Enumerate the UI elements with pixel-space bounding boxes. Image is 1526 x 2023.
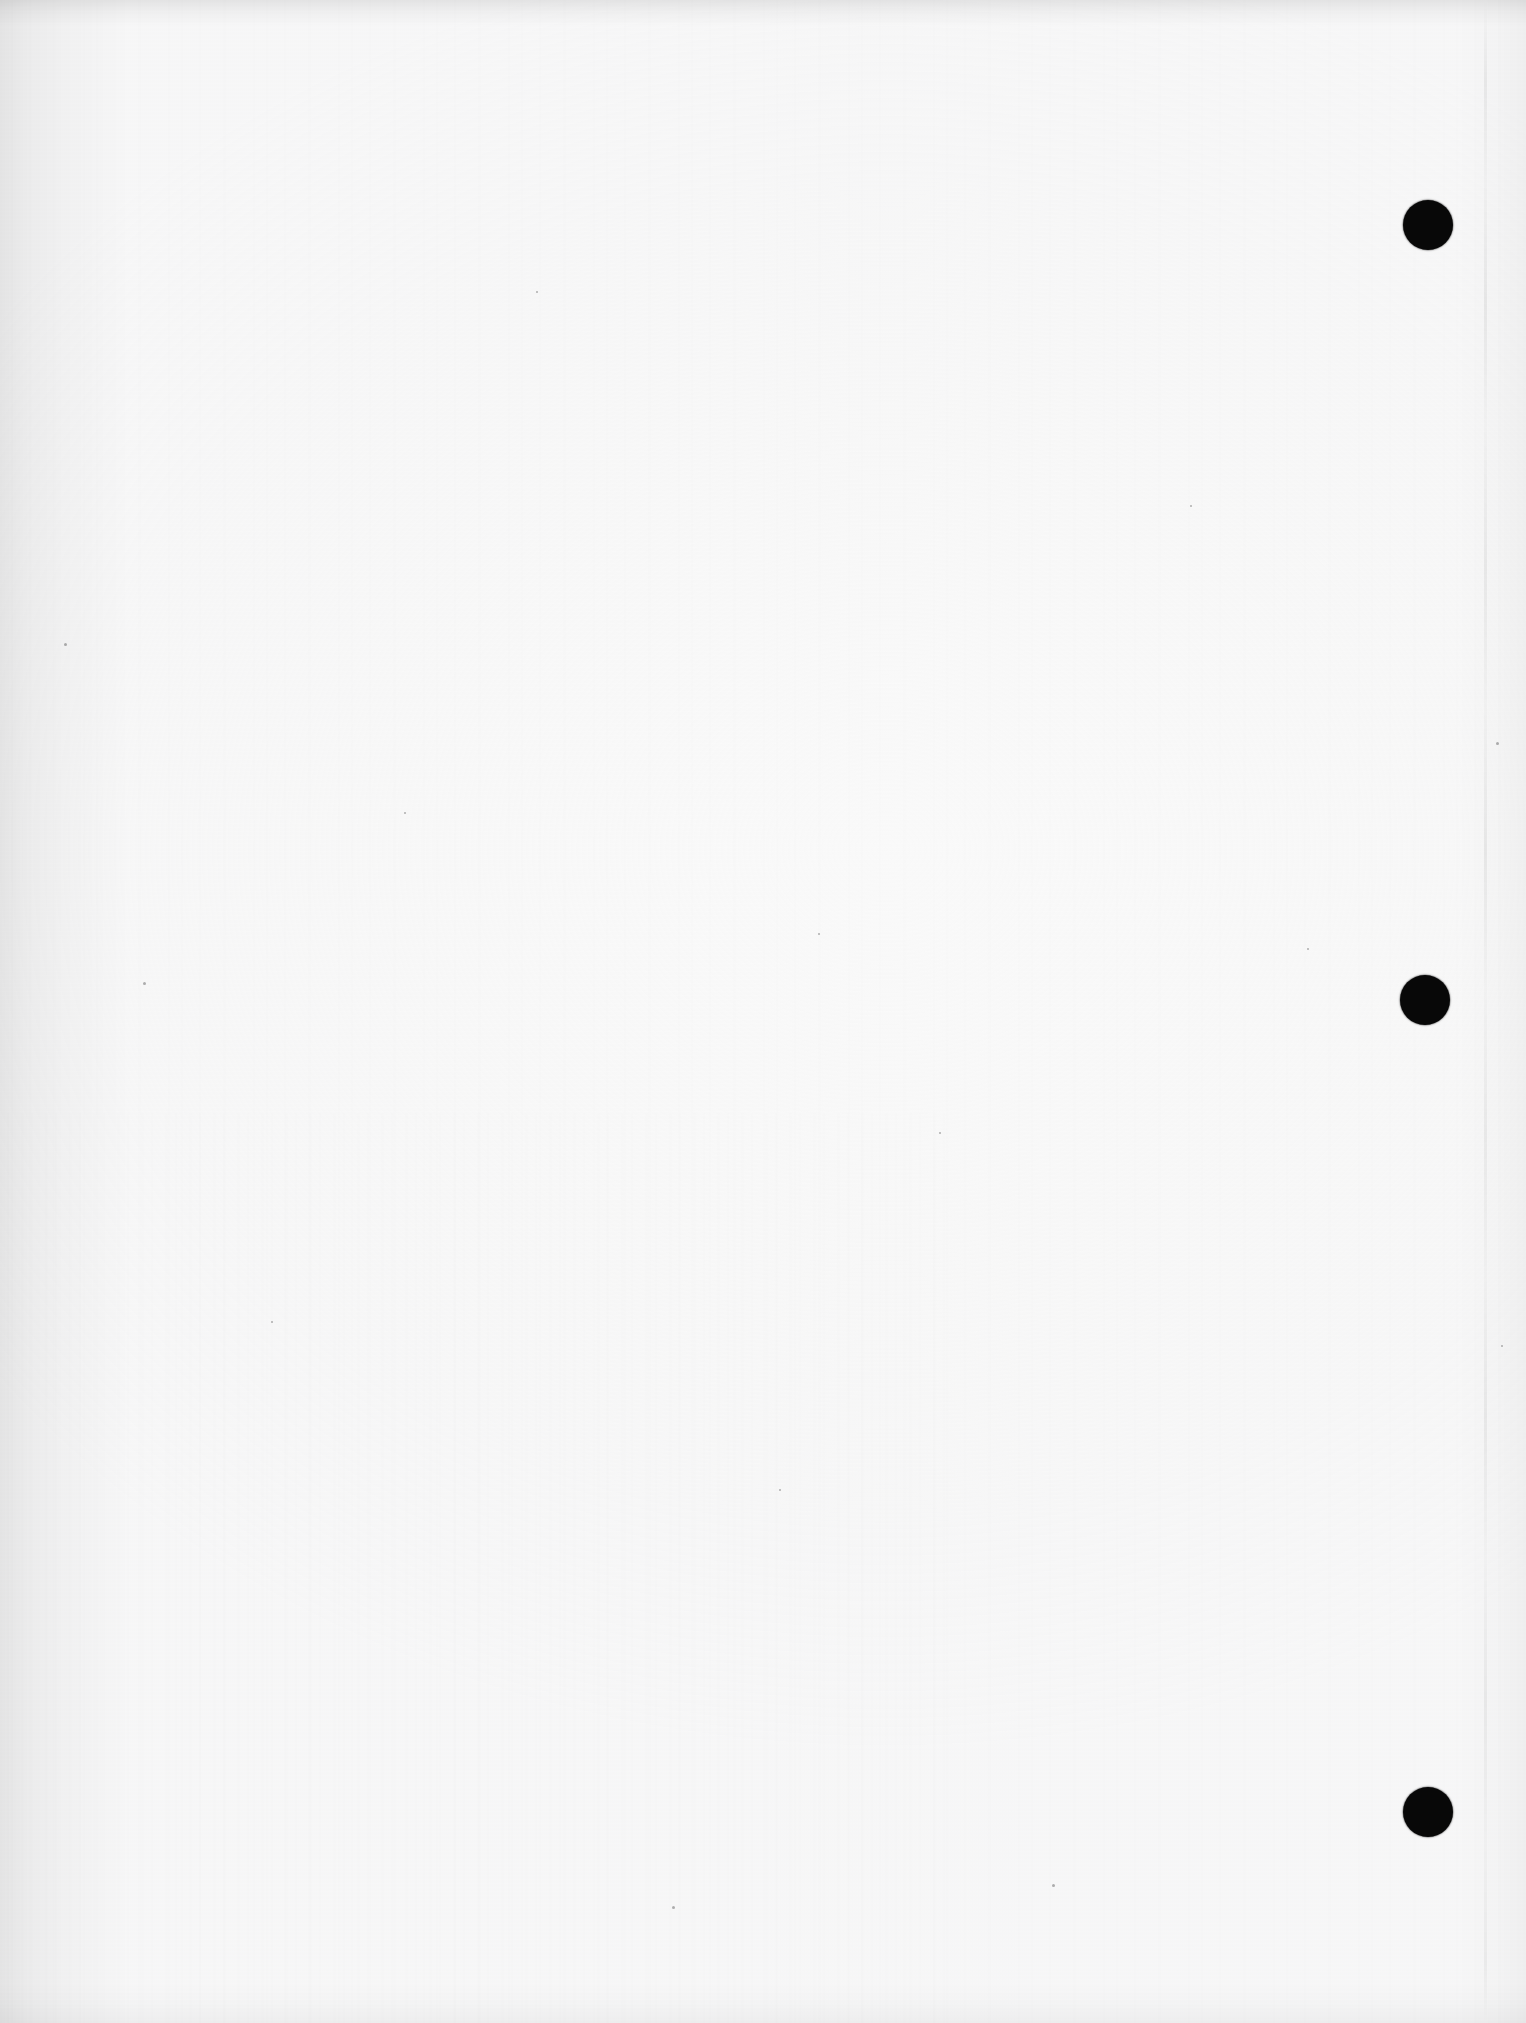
punch-hole-middle	[1400, 975, 1450, 1025]
scanned-page	[0, 0, 1526, 2023]
punch-hole-bottom	[1403, 1787, 1453, 1837]
paper-tone-overlay	[0, 0, 1526, 2023]
punch-hole-top	[1403, 200, 1453, 250]
